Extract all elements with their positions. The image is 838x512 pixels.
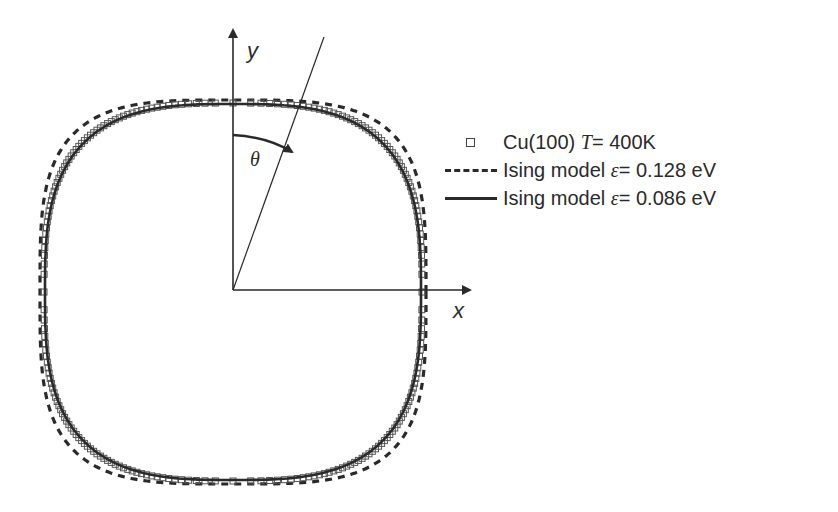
legend-item-ising-0128: Ising model ε = 0.128 eV bbox=[445, 156, 716, 184]
legend-var: ε bbox=[611, 184, 619, 212]
island-shape-diagram bbox=[0, 0, 838, 512]
legend-var: T bbox=[581, 128, 592, 156]
angle-ray bbox=[233, 37, 324, 290]
open-square-icon bbox=[445, 138, 497, 147]
legend-value: = 400K bbox=[592, 128, 656, 156]
legend-var: ε bbox=[611, 156, 619, 184]
x-axis-label: x bbox=[453, 298, 464, 324]
legend-text: Cu(100) bbox=[503, 128, 575, 156]
legend-item-cu100: Cu(100) T = 400K bbox=[445, 128, 716, 156]
legend-item-ising-0086: Ising model ε = 0.086 eV bbox=[445, 184, 716, 212]
dashed-line-icon bbox=[445, 169, 497, 172]
legend-value: = 0.086 eV bbox=[619, 184, 716, 212]
y-axis-label: y bbox=[247, 38, 258, 64]
legend-text: Ising model bbox=[503, 184, 605, 212]
solid-line-icon bbox=[445, 197, 497, 200]
theta-label: θ bbox=[250, 148, 260, 171]
legend-value: = 0.128 eV bbox=[619, 156, 716, 184]
legend-text: Ising model bbox=[503, 156, 605, 184]
legend: Cu(100) T = 400K Ising model ε = 0.128 e… bbox=[445, 128, 716, 212]
